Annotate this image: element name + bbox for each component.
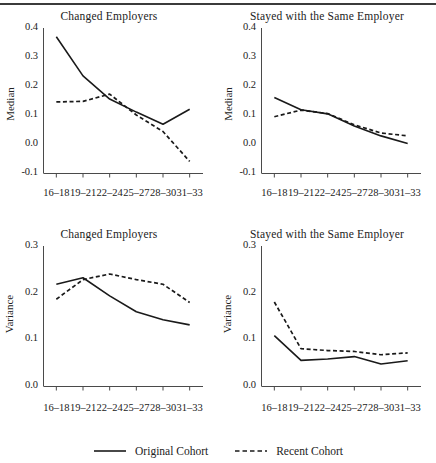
y-axis-tick-label: 0.0 [1, 137, 38, 148]
top-divider-rule [0, 3, 436, 5]
legend-label: Recent Cohort [276, 445, 343, 457]
series-line-original-cohort [274, 98, 407, 144]
y-axis-tick-label: 0.1 [219, 108, 256, 119]
chart-canvas [261, 246, 431, 398]
panel-variance-stayed-same-employer: Stayed with the Same Employer Variance 0… [218, 228, 436, 433]
legend-item-original-cohort: Original Cohort [93, 445, 208, 457]
x-axis-tick-label: 31–33 [391, 187, 425, 198]
y-axis-label: Variance [205, 308, 249, 320]
y-axis-tick-label: 0.4 [1, 21, 38, 32]
panel-median-changed-employers: Changed Employers Median 0.40.30.20.10.0… [0, 10, 218, 220]
y-axis-tick-label: 0.3 [219, 50, 256, 61]
x-axis-tick-label: 31–33 [173, 402, 207, 413]
y-axis-tick-label: 0.3 [1, 50, 38, 61]
figure-root: Changed Employers Median 0.40.30.20.10.0… [0, 0, 436, 463]
y-axis-tick-label: 0.1 [219, 332, 256, 343]
series-line-recent-cohort [56, 94, 189, 161]
panel-variance-changed-employers: Changed Employers Variance 0.30.20.10.01… [0, 228, 218, 433]
chart-canvas [43, 246, 213, 398]
y-axis-tick-label: 0.2 [1, 286, 38, 297]
chart-canvas [261, 28, 431, 185]
y-axis-tick-label: 0.2 [219, 79, 256, 90]
series-line-recent-cohort [274, 302, 407, 355]
legend-swatch-dashed-line [234, 446, 268, 456]
series-line-recent-cohort [56, 274, 189, 302]
legend-item-recent-cohort: Recent Cohort [234, 445, 343, 457]
legend: Original Cohort Recent Cohort [0, 441, 436, 461]
series-line-recent-cohort [274, 110, 407, 136]
y-axis-label: Variance [0, 308, 31, 320]
y-axis-tick-label: 0.2 [219, 286, 256, 297]
y-axis-tick-label: -0.1 [219, 166, 256, 177]
plot-area [43, 246, 213, 398]
x-axis-tick-label: 31–33 [173, 187, 207, 198]
y-axis-tick-label: 0.1 [1, 332, 38, 343]
y-axis-tick-label: 0.0 [219, 379, 256, 390]
y-axis-tick-label: 0.2 [1, 79, 38, 90]
series-line-original-cohort [274, 336, 407, 364]
legend-label: Original Cohort [135, 445, 208, 457]
series-line-original-cohort [56, 278, 189, 325]
panel-median-stayed-same-employer: Stayed with the Same Employer Median 0.4… [218, 10, 436, 220]
plot-area [261, 246, 431, 398]
x-axis-tick-label: 31–33 [391, 402, 425, 413]
y-axis-tick-label: 0.3 [219, 239, 256, 250]
chart-canvas [43, 28, 213, 185]
y-axis-tick-label: 0.1 [1, 108, 38, 119]
y-axis-tick-label: -0.1 [1, 166, 38, 177]
y-axis-tick-label: 0.0 [219, 137, 256, 148]
plot-area [261, 28, 431, 185]
plot-area [43, 28, 213, 185]
legend-swatch-solid-line [93, 446, 127, 456]
y-axis-tick-label: 0.4 [219, 21, 256, 32]
y-axis-tick-label: 0.3 [1, 239, 38, 250]
series-line-original-cohort [56, 37, 189, 125]
y-axis-tick-label: 0.0 [1, 379, 38, 390]
